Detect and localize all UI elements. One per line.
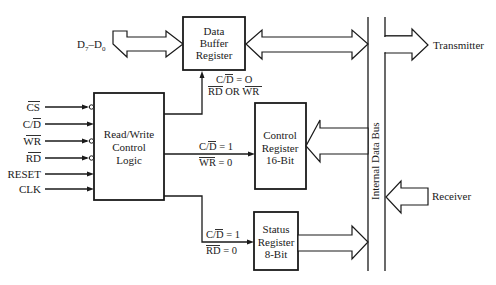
block-diagram: Internal Data Bus Transmitter Receiver D… [0, 0, 496, 285]
transmitter-label: Transmitter [433, 39, 484, 51]
inversion-bubble-rd [89, 156, 93, 160]
inversion-bubble-cs [89, 105, 93, 109]
receiver-arrow [386, 181, 428, 213]
buffer-condition-line-2: RD OR WR [208, 86, 259, 97]
external-data-bus-label: D7–D0 [77, 38, 106, 53]
data-buffer-label-3: Register [196, 49, 233, 61]
data-buffer-label-2: Buffer [200, 37, 229, 49]
external-data-bus-arrow [113, 31, 183, 57]
data-buffer-label-1: Data [204, 25, 225, 37]
logic-to-status-register-arrowhead [247, 240, 254, 245]
transmitter-arrow [385, 29, 428, 60]
control-logic-label-3: Logic [116, 154, 142, 166]
internal-bus-label: Internal Data Bus [369, 122, 381, 200]
control-register-condition-line-1: C/D = 1 [199, 141, 233, 152]
buffer-condition-line-1: C/D = O [216, 74, 253, 85]
input-label-clk: CLK [19, 183, 41, 195]
input-label-cd: C/D [23, 118, 41, 130]
status-register-condition-line-1: C/D = 1 [206, 229, 240, 240]
bus-to-control-register-arrow [306, 120, 368, 162]
status-register-label-1: Status [263, 223, 290, 235]
data-buffer-bus-arrow [246, 30, 368, 59]
control-logic-label-1: Read/Write [104, 128, 154, 140]
control-register-condition-line-2: WR = 0 [199, 157, 232, 168]
input-label-reset: RESET [7, 168, 41, 180]
logic-to-buffer-arrowhead [200, 71, 205, 78]
logic-to-buffer-line [164, 74, 202, 114]
receiver-label: Receiver [432, 190, 471, 202]
status-register-label-3: 8-Bit [265, 248, 288, 260]
status-register-condition-line-2: RD = 0 [206, 245, 237, 256]
input-label-rd: RD [26, 152, 41, 164]
control-register-label-3: 16-Bit [266, 154, 294, 166]
internal-bus-right-line-top [385, 17, 412, 36]
control-register-label-2: Register [262, 142, 299, 154]
input-signals: CS C/D WR RD RESET CLK [7, 101, 94, 195]
status-register-label-2: Register [258, 236, 295, 248]
input-label-wr: WR [23, 135, 41, 147]
inversion-bubble-wr [89, 139, 93, 143]
control-logic-label-2: Control [112, 141, 146, 153]
status-register-to-bus-arrow [298, 226, 368, 259]
logic-to-control-register-arrowhead [248, 152, 255, 157]
input-label-cs: CS [27, 101, 40, 113]
control-register-label-1: Control [263, 129, 297, 141]
